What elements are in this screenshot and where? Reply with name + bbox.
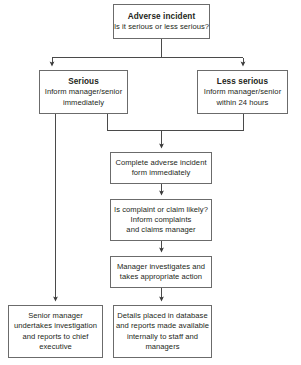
node-senior-manager-line-4: executive (39, 342, 72, 352)
node-less-serious: Less serious Inform manager/senior withi… (197, 70, 288, 114)
node-adverse-incident-line-1: Is it serious or less serious? (114, 22, 209, 32)
node-serious-line-2: immediately (63, 98, 104, 108)
node-complaint-claim-line-1: Is complaint or claim likely? (114, 205, 208, 215)
node-senior-manager-line-2: undertakes investigation (14, 321, 97, 331)
node-details-database: Details placed in database and reports m… (113, 305, 212, 358)
node-complete-form-line-1: Complete adverse incident (115, 158, 206, 168)
node-adverse-incident: Adverse incident Is it serious or less s… (113, 4, 210, 39)
node-manager-investigates: Manager investigates and takes appropria… (110, 256, 212, 288)
connector-serious-to-complete-form (107, 114, 162, 131)
node-complete-form-line-2: form immediately (132, 168, 191, 178)
node-adverse-incident-title: Adverse incident (128, 11, 196, 22)
node-details-database-line-2: and reports made available (116, 321, 209, 331)
node-manager-investigates-line-1: Manager investigates and (117, 262, 205, 272)
node-complaint-claim-line-3: and claims manager (126, 225, 195, 235)
connector-less-serious-to-complete-form (162, 114, 244, 131)
node-senior-manager: Senior manager undertakes investigation … (8, 305, 103, 358)
node-less-serious-line-1: Inform manager/senior (204, 87, 281, 97)
node-serious-line-1: Inform manager/senior (45, 87, 122, 97)
node-less-serious-line-2: within 24 hours (217, 98, 269, 108)
node-details-database-line-3: internally to staff and (127, 332, 198, 342)
flowchart-diagram: Adverse incident Is it serious or less s… (0, 0, 301, 365)
node-complaint-claim: Is complaint or claim likely? Inform com… (110, 199, 212, 241)
node-less-serious-title: Less serious (217, 76, 268, 87)
node-complaint-claim-line-2: Inform complaints (131, 215, 192, 225)
node-complete-form: Complete adverse incident form immediate… (110, 152, 212, 184)
node-senior-manager-line-1: Senior manager (28, 311, 83, 321)
node-serious-title: Serious (68, 76, 99, 87)
node-manager-investigates-line-2: takes appropriate action (120, 272, 202, 282)
node-serious: Serious Inform manager/senior immediatel… (39, 70, 128, 114)
node-details-database-line-4: managers (145, 342, 179, 352)
node-senior-manager-line-3: and reports to chief (22, 332, 88, 342)
node-details-database-line-1: Details placed in database (117, 311, 207, 321)
